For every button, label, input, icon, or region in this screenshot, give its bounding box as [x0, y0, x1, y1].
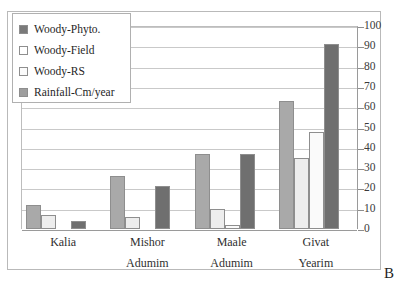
x-axis-category-labels: KaliaMishorAdumimMaaleAdumimGivatYearim [21, 232, 358, 276]
category-label-line2: Adumim [190, 253, 274, 274]
y-axis-tick-label: 10 [364, 203, 376, 215]
bar [195, 154, 210, 229]
y-axis-tick-label: 0 [364, 223, 370, 235]
category-label-line1: Kalia [50, 235, 76, 249]
x-axis-category-label: GivatYearim [274, 232, 358, 274]
y-axis-tick-label: 40 [364, 142, 376, 154]
legend-item: Rainfall-Cm/year [19, 82, 130, 102]
legend-item: Woody-Field [19, 40, 130, 60]
y-axis-tick-label: 60 [364, 101, 376, 113]
category-label-line1: Givat [303, 235, 330, 249]
category-label-line1: Mishor [130, 235, 165, 249]
bar [125, 217, 140, 229]
bar-group [275, 27, 359, 229]
bar [41, 215, 56, 229]
bar [240, 154, 255, 229]
category-label-line2: Yearim [274, 253, 358, 274]
bar [71, 221, 86, 229]
bar [155, 186, 170, 229]
bar [210, 209, 225, 229]
y-axis-tick-label: 90 [364, 40, 376, 52]
x-axis-category-label: MaaleAdumim [190, 232, 274, 274]
legend-swatch-icon [19, 46, 28, 55]
gridline [22, 230, 357, 231]
y-axis-tick-label: 70 [364, 81, 376, 93]
bar [309, 132, 324, 229]
panel-letter: B [384, 266, 394, 281]
bar [324, 44, 339, 229]
bar [279, 101, 294, 229]
bar-group [191, 27, 275, 229]
y-axis-tick-label: 20 [364, 182, 376, 194]
x-axis-category-label: MishorAdumim [105, 232, 189, 274]
y-axis-tick-label: 50 [364, 122, 376, 134]
y-axis-tick-label: 80 [364, 61, 376, 73]
legend-item-label: Woody-RS [34, 65, 85, 77]
legend-item-label: Rainfall-Cm/year [34, 86, 114, 98]
category-label-line2: Adumim [105, 253, 189, 274]
legend-swatch-icon [19, 25, 28, 34]
legend: Woody-Phyto.Woody-FieldWoody-RSRainfall-… [12, 13, 131, 103]
legend-item-label: Woody-Field [34, 44, 94, 56]
y-axis-tick-label: 100 [364, 20, 381, 32]
bar [110, 176, 125, 229]
y-axis-tick-label: 30 [364, 162, 376, 174]
category-label-line1: Maale [217, 235, 247, 249]
legend-swatch-icon [19, 67, 28, 76]
x-axis-category-label: Kalia [21, 232, 105, 253]
legend-item-label: Woody-Phyto. [34, 23, 100, 35]
bar [26, 205, 41, 229]
legend-item: Woody-RS [19, 61, 130, 81]
legend-swatch-icon [19, 88, 28, 97]
legend-item: Woody-Phyto. [19, 19, 130, 39]
bar [294, 158, 309, 229]
figure-panel-b: 0102030405060708090100 KaliaMishorAdumim… [0, 0, 400, 289]
bar [225, 225, 240, 229]
